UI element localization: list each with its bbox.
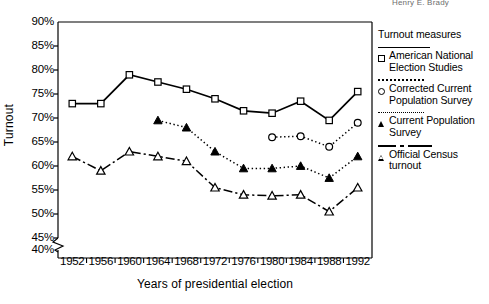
data-point bbox=[326, 143, 333, 150]
data-point bbox=[354, 152, 362, 160]
legend-item[interactable]: Official Census turnout bbox=[376, 145, 489, 172]
legend-marker-icon bbox=[376, 115, 386, 127]
legend-title: Turnout measures bbox=[378, 28, 489, 40]
legend-label: American National Election Studies bbox=[389, 50, 489, 73]
axes bbox=[53, 22, 372, 258]
series-3 bbox=[68, 147, 362, 215]
legend-line-sample bbox=[378, 112, 424, 113]
data-point bbox=[98, 100, 104, 106]
legend-line-sample bbox=[378, 47, 430, 48]
legend-item[interactable]: Current Population Survey bbox=[376, 112, 489, 138]
legend-marker-icon bbox=[376, 83, 386, 95]
data-point bbox=[240, 108, 246, 114]
data-point bbox=[155, 79, 161, 85]
data-point bbox=[211, 147, 219, 155]
legend-line-sample bbox=[378, 79, 424, 81]
data-point bbox=[183, 86, 189, 92]
x-axis-title: Years of presidential election bbox=[55, 277, 375, 291]
data-series-layer bbox=[68, 72, 362, 215]
data-point bbox=[69, 100, 75, 106]
data-point bbox=[268, 164, 276, 172]
data-point bbox=[326, 117, 332, 123]
legend-item[interactable]: American National Election Studies bbox=[376, 47, 489, 73]
legend-marker-icon bbox=[376, 149, 386, 161]
data-point bbox=[126, 72, 132, 78]
data-point bbox=[269, 110, 275, 116]
data-point bbox=[125, 147, 133, 155]
legend-line-sample bbox=[378, 145, 432, 147]
legend-label: Corrected Current Population Survey bbox=[389, 83, 489, 106]
legend-label: Current Population Survey bbox=[389, 115, 489, 138]
y-axis-break-icon bbox=[53, 238, 63, 252]
series-1 bbox=[269, 119, 361, 150]
data-point bbox=[296, 162, 304, 170]
data-point bbox=[97, 167, 105, 175]
data-point bbox=[354, 119, 361, 126]
data-point bbox=[297, 98, 303, 104]
legend-item[interactable]: Corrected Current Population Survey bbox=[376, 79, 489, 106]
data-point bbox=[354, 183, 362, 191]
chart-page: Henry E. Brady Turnout 90%85%80%75%70%65… bbox=[0, 0, 489, 304]
data-point bbox=[355, 88, 361, 94]
data-point bbox=[68, 152, 76, 160]
legend: Turnout measures American National Elect… bbox=[376, 28, 489, 178]
data-point bbox=[325, 207, 333, 215]
legend-entries: American National Election StudiesCorrec… bbox=[376, 47, 489, 172]
data-point bbox=[154, 116, 162, 124]
data-point bbox=[297, 133, 304, 140]
plot-area: Turnout 90%85%80%75%70%65%60%55%50%45%40… bbox=[0, 0, 375, 304]
data-point bbox=[239, 164, 247, 172]
data-point bbox=[269, 134, 276, 141]
data-point bbox=[182, 123, 190, 131]
data-point bbox=[212, 96, 218, 102]
series-0 bbox=[69, 72, 361, 124]
legend-marker-icon bbox=[376, 50, 386, 62]
legend-label: Official Census turnout bbox=[389, 149, 489, 172]
x-tick-label: 1992 bbox=[338, 255, 378, 267]
